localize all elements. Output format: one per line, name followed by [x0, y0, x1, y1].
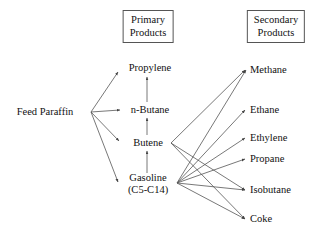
node-coke: Coke [250, 213, 272, 225]
node-ethane-label: Ethane [250, 104, 279, 116]
node-ethane: Ethane [250, 104, 279, 116]
node-propylene: Propylene [129, 62, 172, 74]
edge-feed-paraffin-to-butene [91, 112, 119, 141]
primary-header-line1: Primary [130, 14, 167, 27]
node-ethylene: Ethylene [250, 132, 287, 144]
secondary-header: SecondaryProducts [247, 10, 305, 43]
edge-feed-paraffin-to-n-butane [91, 110, 120, 112]
edge-feed-paraffin-to-propylene [91, 72, 118, 112]
reaction-network-diagram: PrimaryProductsSecondaryProducts Feed Pa… [0, 0, 323, 242]
node-propylene-label: Propylene [129, 62, 172, 74]
secondary-header-line1: Secondary [254, 14, 298, 27]
node-methane: Methane [250, 64, 287, 76]
node-n-butane: n-Butane [131, 104, 170, 116]
primary-header: PrimaryProducts [123, 10, 174, 43]
primary-header-line2: Products [130, 27, 167, 40]
node-butene: Butene [133, 137, 163, 149]
secondary-header-line2: Products [254, 27, 298, 40]
node-propane-label: Propane [250, 153, 284, 165]
node-feed-paraffin-label: Feed Paraffin [17, 106, 74, 118]
edge-gasoline-to-ethane [177, 110, 245, 183]
node-feed-paraffin: Feed Paraffin [17, 106, 74, 118]
node-propane: Propane [250, 153, 284, 165]
node-gasoline: Gasoline(C5-C14) [128, 172, 168, 196]
edge-gasoline-to-propane [177, 159, 245, 183]
node-n-butane-label: n-Butane [131, 104, 170, 116]
node-coke-label: Coke [250, 213, 272, 225]
node-gasoline-sublabel: (C5-C14) [128, 184, 168, 196]
node-isobutane: Isobutane [250, 184, 291, 196]
node-methane-label: Methane [250, 64, 287, 76]
edge-gasoline-to-ethylene [177, 138, 245, 183]
node-gasoline-label: Gasoline [128, 172, 168, 184]
edge-gasoline-to-coke [177, 183, 245, 219]
node-butene-label: Butene [133, 137, 163, 149]
edges-group [91, 70, 246, 219]
edge-feed-paraffin-to-gasoline [91, 112, 118, 182]
node-ethylene-label: Ethylene [250, 132, 287, 144]
node-isobutane-label: Isobutane [250, 184, 291, 196]
